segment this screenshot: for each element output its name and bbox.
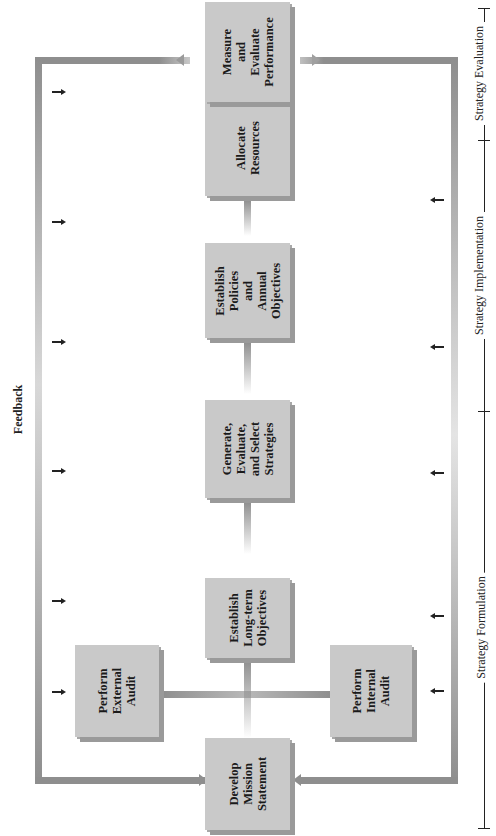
box-label: Establish Policies and Annual Objectives: [213, 262, 283, 318]
feedback-bottom-left-bar: [35, 777, 205, 784]
box-allocate-resources: Allocate Resources: [205, 100, 290, 196]
box-label: Measure and Evaluate Performance: [220, 17, 276, 86]
phase-bracket-line: [484, 8, 485, 828]
arrow-generate-to-policies: [244, 342, 251, 394]
feedback-top-left-bar: [35, 57, 190, 64]
feedback-bottom-right-arrowhead: [293, 774, 301, 786]
phase-cap-top: [478, 8, 490, 9]
feedback-tick-arrow-icon: [52, 470, 64, 472]
feedback-tick-arrow-icon: [432, 199, 444, 201]
feedback-left-vertical-bar: [35, 57, 42, 784]
feedback-tick-arrow-icon: [52, 600, 64, 602]
box-develop-mission-statement: Develop Mission Statement: [205, 738, 290, 830]
box-perform-external-audit: Perform External Audit: [75, 645, 159, 737]
box-generate-evaluate-select-strategies: Generate, Evaluate, and Select Strategie…: [205, 400, 290, 498]
feedback-top-right-arrowhead: [312, 54, 320, 66]
box-label: Perform External Audit: [96, 668, 138, 715]
arrow-mission-to-longterm: [244, 660, 251, 738]
box-measure-evaluate-performance: Measure and Evaluate Performance: [205, 2, 290, 102]
feedback-tick-arrow-icon: [52, 691, 64, 693]
box-label: Develop Mission Statement: [227, 757, 269, 811]
box-perform-internal-audit: Perform Internal Audit: [330, 645, 412, 737]
phase-label-evaluation: Strategy Evaluation: [472, 22, 487, 125]
phase-cap-eval-impl: [478, 140, 490, 141]
box-establish-long-term-objectives: Establish Long-term Objectives: [205, 578, 290, 658]
box-label: Perform Internal Audit: [350, 668, 392, 713]
box-establish-policies-annual-objectives: Establish Policies and Annual Objectives: [205, 243, 290, 338]
feedback-tick-arrow-icon: [432, 690, 444, 692]
feedback-tick-arrow-icon: [432, 346, 444, 348]
arrow-longterm-to-generate: [244, 502, 251, 554]
phase-cap-bottom: [478, 828, 490, 829]
feedback-tick-arrow-icon: [432, 472, 444, 474]
feedback-right-vertical-bar: [451, 57, 458, 784]
feedback-tick-arrow-icon: [432, 615, 444, 617]
feedback-tick-arrow-icon: [52, 91, 64, 93]
feedback-tick-arrow-icon: [52, 221, 64, 223]
box-label: Allocate Resources: [234, 121, 262, 175]
feedback-bottom-right-bar: [300, 777, 458, 784]
phase-label-formulation: Strategy Formulation: [474, 572, 489, 682]
box-label: Establish Long-term Objectives: [227, 589, 269, 647]
feedback-top-right-bar: [300, 57, 458, 64]
arrow-policies-to-allocate: [244, 200, 251, 236]
feedback-top-left-arrowhead: [176, 54, 184, 66]
box-label: Generate, Evaluate, and Select Strategie…: [220, 422, 276, 477]
feedback-tick-arrow-icon: [52, 341, 64, 343]
feedback-label: Feedback: [11, 385, 26, 434]
phase-cap-impl-form: [478, 411, 490, 412]
phase-label-implementation: Strategy Implementation: [472, 212, 487, 339]
